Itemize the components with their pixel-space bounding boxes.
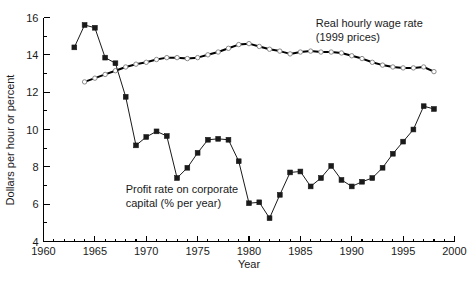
data-point-marker: [350, 54, 354, 58]
data-point-marker: [154, 129, 159, 134]
x-axis-title: Year: [238, 258, 261, 270]
data-point-marker: [103, 55, 108, 60]
data-point-marker: [267, 216, 272, 221]
x-tick-label: 1965: [83, 245, 107, 257]
data-point-marker: [195, 150, 200, 155]
data-point-marker: [206, 53, 210, 57]
data-point-marker: [93, 76, 97, 80]
data-point-marker: [82, 23, 87, 28]
data-point-marker: [206, 137, 211, 142]
data-point-marker: [165, 55, 169, 59]
data-point-marker: [370, 60, 374, 64]
x-tick-label: 2000: [442, 245, 466, 257]
data-point-marker: [432, 69, 436, 73]
data-point-marker: [278, 49, 282, 53]
data-point-marker: [237, 42, 241, 46]
chart-figure: 196019651970197519801985199019952000 468…: [0, 0, 468, 285]
x-tick-label: 1990: [340, 245, 364, 257]
data-point-marker: [185, 56, 189, 60]
data-point-marker: [216, 136, 221, 141]
data-point-marker: [421, 104, 426, 109]
data-point-marker: [288, 52, 292, 56]
data-point-marker: [390, 151, 395, 156]
x-tick-label: 1975: [185, 245, 209, 257]
data-point-marker: [360, 56, 364, 60]
chart-annotations: Real hourly wage rate(1999 prices)Profit…: [126, 17, 423, 209]
x-tick-label: 1985: [288, 245, 312, 257]
data-point-marker: [329, 164, 334, 169]
y-tick-label: 4: [32, 236, 38, 248]
chart-plot-area: 196019651970197519801985199019952000 468…: [0, 0, 468, 285]
data-point-marker: [92, 25, 97, 30]
data-point-marker: [319, 176, 324, 181]
wage-annotation-line-1: Real hourly wage rate: [316, 17, 423, 29]
data-point-marker: [257, 200, 262, 205]
y-tick-label: 6: [32, 198, 38, 210]
data-point-marker: [124, 65, 128, 69]
data-point-marker: [247, 201, 252, 206]
axis-lines: [44, 18, 455, 242]
data-point-marker: [226, 137, 231, 142]
y-tick-label: 12: [26, 86, 38, 98]
data-point-marker: [288, 170, 293, 175]
data-point-marker: [103, 72, 107, 76]
wage-annotation-line-2: (1999 prices): [316, 31, 380, 43]
data-point-marker: [298, 50, 302, 54]
x-tick-label: 1995: [391, 245, 415, 257]
data-point-marker: [134, 62, 138, 66]
profit-annotation-line-1: Profit rate on corporate: [126, 183, 239, 195]
data-point-marker: [216, 50, 220, 54]
y-tick-label: 8: [32, 161, 38, 173]
y-tick-label: 16: [26, 12, 38, 24]
data-point-marker: [195, 55, 199, 59]
data-point-marker: [380, 165, 385, 170]
data-point-marker: [411, 66, 415, 70]
data-point-marker: [144, 60, 148, 64]
data-point-marker: [380, 63, 384, 67]
x-tick-label: 1970: [134, 245, 158, 257]
data-point-marker: [236, 159, 241, 164]
x-tick-label: 1980: [237, 245, 261, 257]
data-point-marker: [349, 184, 354, 189]
axes: [44, 18, 455, 242]
data-point-marker: [175, 176, 180, 181]
data-point-marker: [72, 45, 77, 50]
data-point-marker: [339, 178, 344, 183]
data-point-marker: [113, 61, 118, 66]
data-point-marker: [164, 134, 169, 139]
y-axis-title: Dollars per hour or percent: [4, 75, 16, 206]
data-point-marker: [421, 65, 425, 69]
data-point-marker: [82, 80, 86, 84]
data-point-marker: [154, 57, 158, 61]
data-point-marker: [134, 143, 139, 148]
data-point-marker: [360, 179, 365, 184]
data-point-marker: [319, 50, 323, 54]
data-point-marker: [123, 94, 128, 99]
data-point-marker: [329, 50, 333, 54]
data-point-marker: [277, 192, 282, 197]
data-point-marker: [175, 55, 179, 59]
data-point-marker: [432, 107, 437, 112]
series-wage: [82, 41, 436, 84]
data-point-marker: [144, 135, 149, 140]
tick-marks: [44, 18, 455, 242]
data-point-marker: [339, 51, 343, 55]
data-point-marker: [370, 176, 375, 181]
data-point-marker: [226, 46, 230, 50]
y-tick-label: 10: [26, 124, 38, 136]
data-point-marker: [391, 65, 395, 69]
data-point-marker: [185, 165, 190, 170]
data-point-marker: [401, 139, 406, 144]
data-point-marker: [308, 49, 312, 53]
profit-annotation-line-2: capital (% per year): [126, 197, 221, 209]
data-point-marker: [401, 66, 405, 70]
data-point-marker: [411, 127, 416, 132]
data-point-marker: [298, 169, 303, 174]
y-axis-tick-labels: 46810121416: [26, 12, 38, 248]
data-point-marker: [267, 47, 271, 51]
data-point-marker: [247, 41, 251, 45]
y-tick-label: 14: [26, 49, 38, 61]
x-axis-tick-labels: 196019651970197519801985199019952000: [31, 245, 466, 257]
data-point-marker: [257, 44, 261, 48]
data-point-marker: [308, 184, 313, 189]
